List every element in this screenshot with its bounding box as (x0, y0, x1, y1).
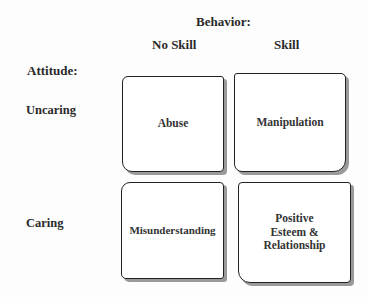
behavior-axis-label: Behavior: (196, 14, 251, 30)
row-header-caring: Caring (26, 216, 64, 231)
cell-label: Misunderstanding (129, 224, 215, 237)
column-header-skill: Skill (274, 37, 299, 53)
cell-label: Manipulation (256, 116, 323, 130)
cell-label: Abuse (158, 117, 189, 131)
cell-uncaring-skill: Manipulation (234, 73, 346, 172)
cell-label: Positive Esteem & Relationship (264, 212, 326, 253)
row-header-uncaring: Uncaring (26, 103, 76, 118)
cell-caring-no-skill: Misunderstanding (121, 182, 224, 279)
column-header-no-skill: No Skill (152, 37, 196, 53)
cell-uncaring-no-skill: Abuse (122, 76, 224, 172)
attitude-axis-label: Attitude: (27, 63, 78, 79)
cell-caring-skill: Positive Esteem & Relationship (238, 182, 351, 283)
